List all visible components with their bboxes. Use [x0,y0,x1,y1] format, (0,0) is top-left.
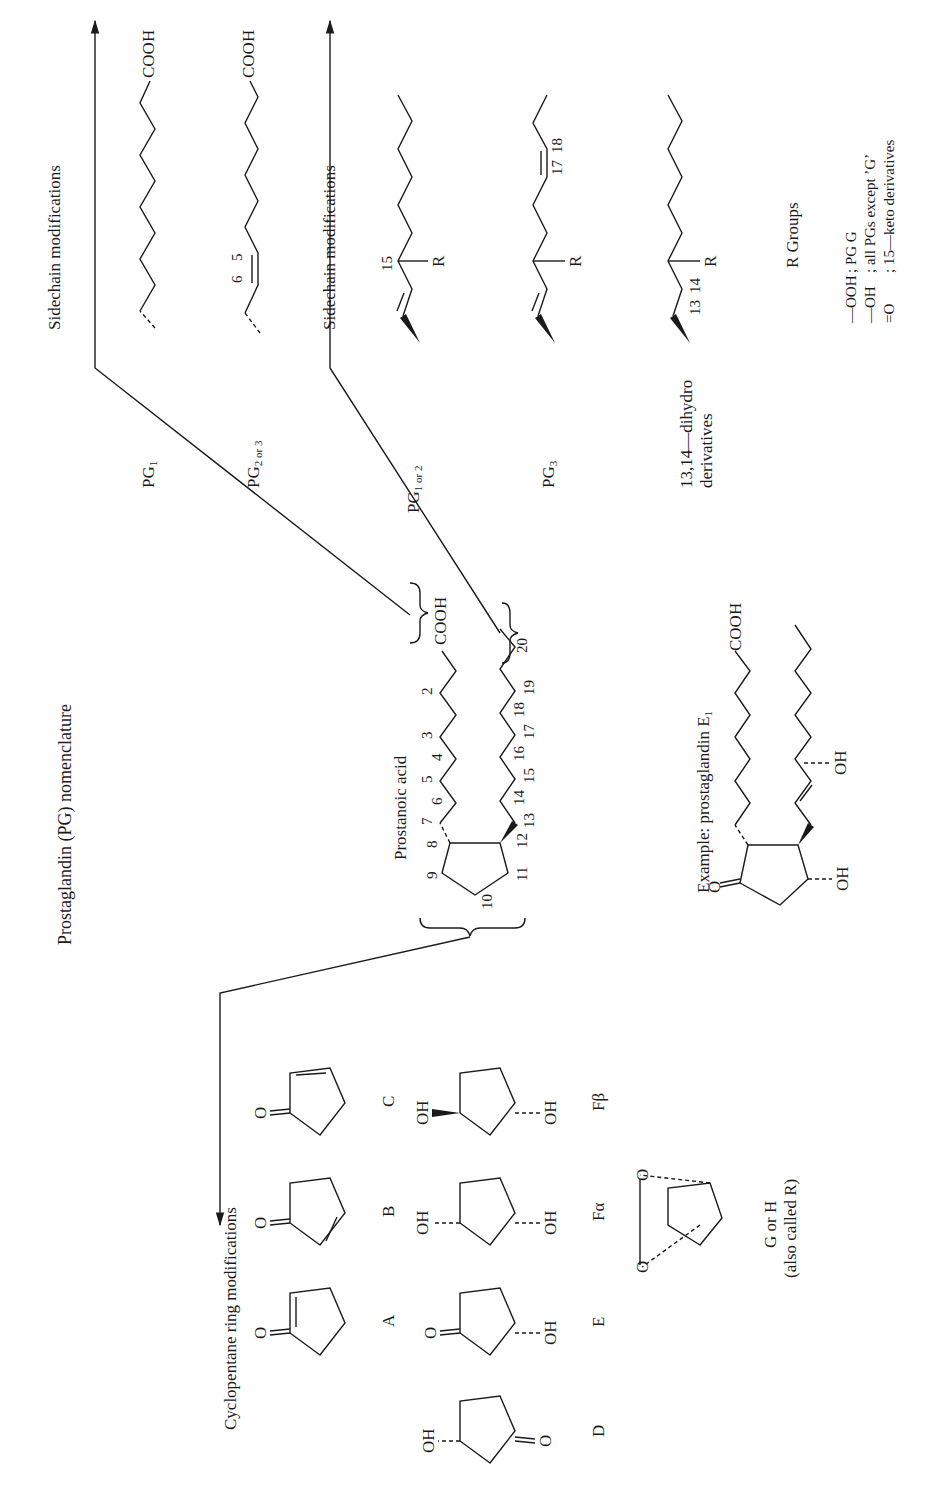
carbon-5: 5 [420,776,435,784]
carbon-6: 6 [430,798,445,806]
position-6: 6 [230,276,245,284]
ring-f-beta-oh2: OH [542,1100,559,1125]
example-ketone: O [706,881,723,893]
ring-c [270,1068,345,1135]
r-substituent-3: R [702,256,719,267]
carbon-8: 8 [425,841,440,849]
position-17: 17 [550,160,565,175]
example-chain-oh: OH [832,750,849,775]
ring-f-alpha-label: Fα [590,1203,607,1221]
ring-a-label: A [380,1315,397,1327]
carbon-3: 3 [420,732,435,740]
pg3-lower-sidechain [532,95,565,343]
position-18: 18 [550,138,565,153]
ring-a [270,1288,345,1355]
ring-f-alpha [435,1178,540,1245]
position-13: 13 [688,300,703,315]
pg2or3-cooh: COOH [240,30,257,78]
position-5: 5 [230,254,245,262]
sidechain-heading-lower: Sidechain modifications [321,165,338,330]
r-group-row: —OOH; PG G [842,140,861,323]
r-groups-heading: R Groups [784,202,801,268]
ring-c-oxo: O [252,1107,269,1119]
position-14: 14 [688,278,703,293]
prostanoic-cooh: COOH [432,597,449,645]
ring-e [440,1288,540,1355]
pg2or3-label: PG2 or 3 [245,441,264,488]
carbon-4: 4 [430,754,445,762]
carbon-14: 14 [512,790,527,805]
carbon-10: 10 [480,894,495,909]
pge1-structure [720,625,832,905]
r-substituent-2: R [567,256,584,267]
example-label: Example: prostaglandin E1 [695,711,714,893]
carbon-9: 9 [425,872,440,880]
carbon-15: 15 [522,768,537,783]
prostanoic-acid-structure [410,583,525,936]
r-groups-list: —OOH; PG G —OH; all PGs except ’G’ =O; 1… [842,140,899,323]
sidechain-heading-upper: Sidechain modifications [46,165,63,330]
ring-d [438,1396,535,1463]
pg1-cooh: COOH [140,30,157,78]
structure-drawings [0,0,948,1493]
ring-b [270,1178,345,1245]
r-group-row: —OH; all PGs except ’G’ [861,140,880,323]
ring-a-oxo: O [252,1327,269,1339]
diagram-page: Prostaglandin (PG) nomenclature [0,0,948,1493]
ring-e-oxo: O [422,1327,439,1339]
pg1or2-lower-sidechain [397,95,428,343]
carbon-19: 19 [522,680,537,695]
pg1-label: PG1 [140,461,159,488]
carbon-2: 2 [420,688,435,696]
ring-g-h [640,1175,722,1267]
ring-d-label: D [590,1425,607,1437]
carbon-20: 20 [515,638,530,653]
ring-f-beta-label: Fβ [590,1093,607,1111]
carbon-17: 17 [522,724,537,739]
ring-e-oh: OH [542,1320,559,1345]
ring-f-beta-oh1: OH [414,1100,431,1125]
ring-b-oxo: O [252,1217,269,1229]
example-cooh: COOH [727,603,744,651]
ring-f-beta [432,1068,540,1135]
pg1or2-label: PG1 or 2 [405,466,424,513]
ring-c-label: C [380,1096,397,1107]
position-15: 15 [380,256,395,271]
prostanoic-acid-label: Prostanoic acid [392,756,409,860]
example-ring-oh: OH [834,866,851,891]
ring-f-alpha-oh2: OH [542,1210,559,1235]
pg3-label: PG3 [540,461,559,488]
ring-modifications-heading: Cyclopentane ring modifications [222,1207,239,1430]
carbon-11: 11 [515,867,530,881]
r-group-row: =O; 15—keto derivatives [880,140,899,323]
ring-f-alpha-oh1: OH [414,1210,431,1235]
pg2-sidechain [245,81,260,333]
ring-b-label: B [380,1206,397,1217]
carbon-12: 12 [515,833,530,848]
carbon-16: 16 [512,746,527,761]
dihydro-label-line2: derivatives [698,413,715,488]
ring-d-oxo: O [537,1435,554,1447]
carbon-13: 13 [522,813,537,828]
ring-g-h-o1: O [634,1261,651,1273]
r-substituent-1: R [430,256,447,267]
ring-g-h-label-line2: (also called R) [782,1179,799,1278]
ring-g-h-label-line1: G or H [762,1201,779,1248]
carbon-18: 18 [512,702,527,717]
carbon-7: 7 [420,818,435,826]
ring-g-h-o2: O [634,1169,651,1181]
ring-e-label: E [590,1317,607,1327]
pg1-sidechain [140,81,155,328]
ring-d-oh: OH [420,1428,437,1453]
dihydro-label-line1: 13,14—dihydro [678,380,695,488]
